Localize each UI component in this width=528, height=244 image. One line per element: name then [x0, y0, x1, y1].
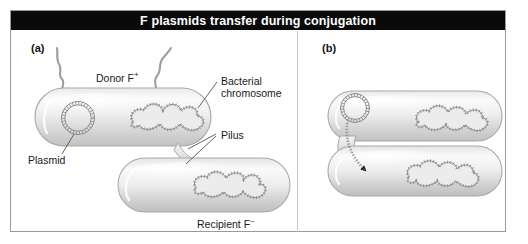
figure-panel: F plasmids transfer during conjugation: [0, 0, 528, 244]
bacterial-chromosome-label: Bacterial chromosome: [221, 76, 282, 99]
panel-a-artwork: [35, 48, 290, 212]
plasmid-label: Plasmid: [28, 155, 65, 167]
recipient-label: Recipient F–: [197, 215, 255, 230]
figure-artwork: [0, 0, 528, 244]
donor-label: Donor F+: [96, 69, 139, 84]
pilus-label: Pilus: [221, 130, 244, 142]
panel-b-artwork: [328, 91, 502, 196]
panel-label-a: (a): [31, 42, 44, 54]
panel-label-b: (b): [322, 42, 336, 54]
